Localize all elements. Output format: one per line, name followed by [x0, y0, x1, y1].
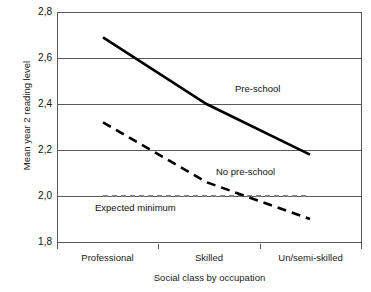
x-tick-label-skilled: Skilled	[158, 252, 260, 263]
x-axis-title: Social class by occupation	[57, 272, 362, 283]
x-tick-label-professional: Professional	[57, 252, 158, 263]
x-tick-label-un-semi-skilled: Un/semi-skilled	[260, 252, 361, 263]
series-layer	[0, 0, 371, 292]
series-label-no-pre-school: No pre-school	[216, 166, 275, 177]
series-label-expected-minimum: Expected minimum	[95, 202, 176, 213]
line-chart: Mean year 2 reading level 2,8 2,6 2,4 2,…	[0, 0, 371, 292]
series-line-pre-school	[103, 37, 310, 154]
series-label-pre-school: Pre-school	[235, 83, 280, 94]
